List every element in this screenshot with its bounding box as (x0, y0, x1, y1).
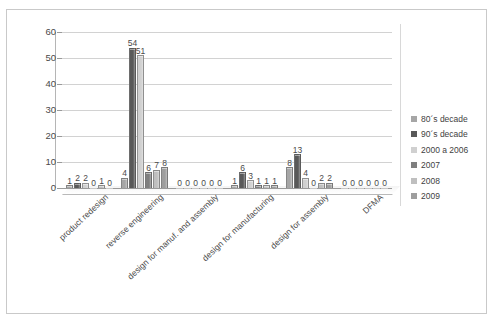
x-axis-category-label: DFMA (361, 192, 385, 216)
legend-label: 80´s decade (421, 114, 468, 124)
bar-slot: 0 (90, 32, 97, 188)
bar-slot: 8 (286, 32, 293, 188)
bar: 4 (302, 178, 309, 188)
legend-item[interactable]: 2009 (411, 189, 468, 205)
bar-slot: 1 (98, 32, 105, 188)
bar-group: 122010 (62, 32, 117, 188)
y-axis-tick (57, 188, 62, 189)
bar-slot: 0 (349, 32, 356, 188)
y-axis-tick-label: 0 (16, 182, 56, 193)
bar: 2 (326, 183, 333, 188)
legend-swatch-icon (411, 131, 417, 137)
bar-value-label: 1 (272, 177, 277, 186)
bar: 1 (255, 185, 262, 188)
chart-legend: 80´s decade90´s decade2000 a 20062007200… (411, 111, 468, 204)
bar-value-label: 6 (240, 164, 245, 173)
legend-label: 2009 (421, 191, 440, 201)
legend-swatch-icon (411, 147, 417, 153)
bar-value-label: 8 (162, 159, 167, 168)
bar-value-label: 1 (232, 177, 237, 186)
bar-slot: 0 (216, 32, 223, 188)
bar-value-label: 0 (177, 179, 182, 188)
legend-swatch-icon (411, 116, 417, 122)
y-axis-tick-label: 60 (16, 26, 56, 37)
bar-slot: 1 (271, 32, 278, 188)
bar-slot: 0 (184, 32, 191, 188)
bar-value-label: 2 (319, 174, 324, 183)
bar: 8 (161, 167, 168, 188)
bar: 7 (153, 170, 160, 188)
bar-value-label: 0 (311, 179, 316, 188)
bar-slot: 0 (357, 32, 364, 188)
legend-item[interactable]: 2008 (411, 173, 468, 189)
y-axis-tick-label: 40 (16, 78, 56, 89)
bar-slot: 3 (247, 32, 254, 188)
bar-slot: 0 (365, 32, 372, 188)
bar-slot: 0 (373, 32, 380, 188)
bar-value-label: 0 (350, 179, 355, 188)
bar-value-label: 1 (256, 177, 261, 186)
bar: 6 (145, 172, 152, 188)
legend-item[interactable]: 90´s decade (411, 127, 468, 143)
bar-slot: 2 (82, 32, 89, 188)
y-axis-tick-label: 20 (16, 130, 56, 141)
bar: 2 (74, 183, 81, 188)
legend-item[interactable]: 80´s decade (411, 111, 468, 127)
bar-value-label: 4 (122, 169, 127, 178)
bar: 1 (66, 185, 73, 188)
bar-value-label: 0 (91, 179, 96, 188)
bar-slot: 6 (145, 32, 152, 188)
bar-group: 000000 (172, 32, 227, 188)
x-axis-labels: product redesignreverse engineeringdesig… (62, 192, 392, 287)
bar-slot: 4 (121, 32, 128, 188)
bar-value-label: 0 (193, 179, 198, 188)
bar-slot: 0 (341, 32, 348, 188)
bar: 3 (247, 180, 254, 188)
bar: 51 (137, 55, 144, 188)
bar-slot: 1 (263, 32, 270, 188)
bar: 1 (263, 185, 270, 188)
bar-value-label: 0 (382, 179, 387, 188)
bar-value-label: 6 (146, 164, 151, 173)
bar-value-label: 3 (248, 172, 253, 181)
y-axis-tick-label: 30 (16, 104, 56, 115)
bar: 4 (121, 178, 128, 188)
bar-group: 000000 (337, 32, 392, 188)
bar-slot: 0 (208, 32, 215, 188)
bar-groups: 122010454516780000001631118134022000000 (62, 32, 392, 188)
bar-slot: 2 (326, 32, 333, 188)
bar-slot: 1 (66, 32, 73, 188)
chart-frame: 0102030405060 12201045451678000000163111… (6, 9, 487, 314)
bar-value-label: 2 (327, 174, 332, 183)
bar-value-label: 51 (136, 47, 145, 56)
bar-value-label: 0 (374, 179, 379, 188)
x-axis-category-label: design for assembly (268, 192, 330, 251)
legend-item[interactable]: 2000 a 2006 (411, 142, 468, 158)
bar: 6 (239, 172, 246, 188)
bar-value-label: 2 (75, 174, 80, 183)
bar-value-label: 0 (217, 179, 222, 188)
bar-slot: 0 (310, 32, 317, 188)
legend-label: 2000 a 2006 (421, 145, 468, 155)
legend-label: 2008 (421, 176, 440, 186)
bar-value-label: 13 (293, 146, 302, 155)
bar: 1 (98, 185, 105, 188)
x-axis-category-label: design for manuf. and assembly (125, 192, 220, 281)
bar-slot: 4 (302, 32, 309, 188)
bar-slot: 2 (74, 32, 81, 188)
bar-value-label: 7 (154, 161, 159, 170)
bar: 1 (271, 185, 278, 188)
legend-label: 2007 (421, 160, 440, 170)
bar-value-label: 2 (83, 174, 88, 183)
bar-slot: 8 (161, 32, 168, 188)
bar-value-label: 0 (185, 179, 190, 188)
bar-value-label: 0 (209, 179, 214, 188)
legend-item[interactable]: 2007 (411, 158, 468, 174)
x-axis-category-label: reverse engineering (104, 192, 166, 251)
bar: 8 (286, 167, 293, 188)
bar-slot: 51 (137, 32, 144, 188)
bar-slot: 2 (318, 32, 325, 188)
bar-value-label: 0 (366, 179, 371, 188)
bar: 1 (231, 185, 238, 188)
bar-value-label: 0 (342, 179, 347, 188)
